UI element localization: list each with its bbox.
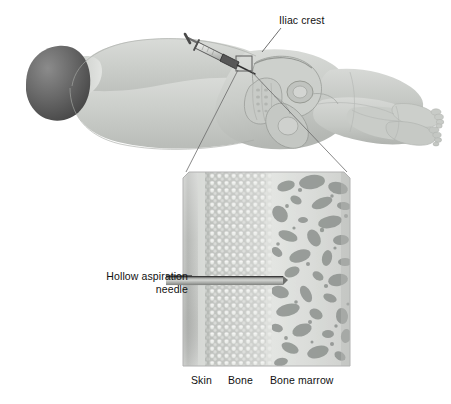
needle-label-line-2: needle — [156, 283, 188, 295]
label-bone-marrow: Bone marrow — [270, 374, 334, 386]
label-skin: Skin — [191, 374, 212, 386]
cortical-bone-texture — [205, 170, 272, 368]
needle-label-line-1: Hollow aspiration — [106, 270, 188, 282]
bone-marrow-aspiration-illustration — [0, 0, 451, 404]
bone-right-edge-highlight — [266, 170, 272, 368]
subcutaneous-strip — [198, 170, 205, 368]
bone-left-edge-shadow — [205, 170, 209, 368]
marrow-right-shadow — [341, 170, 350, 368]
bone-marrow-layer — [272, 170, 350, 368]
label-hollow-aspiration-needle: Hollow aspirationneedle — [76, 270, 188, 296]
label-bone: Bone — [228, 374, 253, 386]
label-iliac-crest: Iliac crest — [279, 14, 324, 26]
tissue-cross-section-panel — [183, 170, 352, 368]
